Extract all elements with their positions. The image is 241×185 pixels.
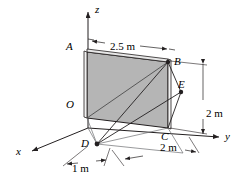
point-label-D: D: [81, 138, 89, 149]
point-label-E: E: [178, 79, 185, 90]
dimension-line-base-depth: [112, 137, 199, 166]
rectangular-plate: [84, 49, 171, 129]
dimension-label-base-depth: 2 m: [160, 142, 177, 153]
dimension-label-plate-height: 2 m: [206, 108, 223, 119]
axis-label-y: y: [225, 131, 230, 142]
axis-label-x: x: [16, 146, 21, 157]
dimension-label-base-offset: 1 m: [72, 163, 89, 174]
dimension-line-plate-height: [170, 61, 207, 134]
point-dot-B: [166, 60, 170, 64]
dimension-label-plate-width: 2.5 m: [110, 41, 135, 52]
statics-figure: x y z A B C D E O 2.5 m 2 m 2 m 1 m: [0, 0, 241, 185]
point-label-B: B: [174, 56, 181, 67]
axis-label-z: z: [95, 4, 99, 15]
axis-x: [32, 128, 88, 151]
point-label-O: O: [66, 99, 74, 110]
point-dot-D: [95, 142, 100, 147]
point-dot-E: [179, 90, 183, 94]
point-label-A: A: [66, 41, 73, 52]
figure-canvas: [0, 0, 241, 185]
